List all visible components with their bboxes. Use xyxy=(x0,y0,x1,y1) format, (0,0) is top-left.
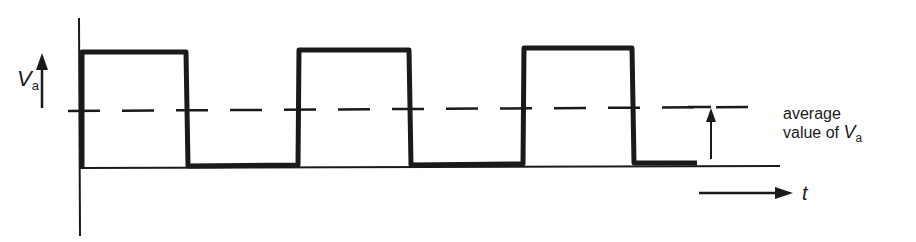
x-axis-label: t xyxy=(802,182,808,205)
average-label-text: value of xyxy=(783,124,839,141)
average-voltage-subscript: a xyxy=(856,131,863,145)
average-voltage-symbol: V xyxy=(844,122,856,142)
average-value-label: average value of Va xyxy=(783,104,862,144)
square-wave-diagram xyxy=(0,0,916,242)
square-waveform xyxy=(82,48,697,168)
time-right-arrow-icon xyxy=(699,187,793,199)
voltage-subscript: a xyxy=(32,78,39,93)
average-arrow-icon xyxy=(706,108,716,159)
average-label-line2: value of Va xyxy=(783,123,862,144)
average-dashed-line xyxy=(68,107,758,111)
y-axis-label: Va xyxy=(17,66,39,92)
average-label-line1: average xyxy=(783,104,862,123)
voltage-symbol: V xyxy=(17,66,32,91)
